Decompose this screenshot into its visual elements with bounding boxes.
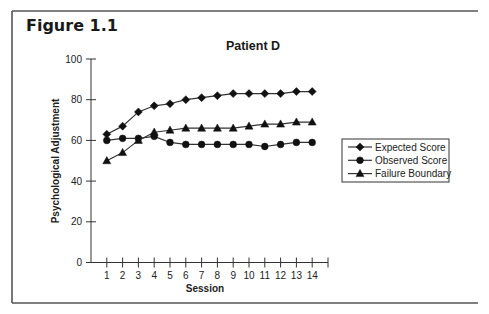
x-tick-label: 5 — [167, 270, 173, 281]
x-ticks: 1234567891011121314 — [104, 258, 328, 282]
x-tick-label: 12 — [275, 270, 287, 281]
circle-icon — [357, 157, 364, 164]
chart-title: Patient D — [226, 39, 280, 53]
circle-marker — [182, 141, 189, 148]
legend: Expected ScoreObserved ScoreFailure Boun… — [342, 139, 451, 182]
circle-marker — [167, 139, 174, 146]
circle-marker — [103, 137, 110, 144]
x-axis-label: Session — [186, 283, 224, 294]
diamond-marker — [213, 92, 221, 100]
y-tick-label: 60 — [71, 135, 83, 146]
legend-label: Observed Score — [375, 155, 448, 166]
legend-label: Failure Boundary — [375, 168, 451, 179]
circle-marker — [261, 143, 268, 150]
triangle-marker — [103, 157, 111, 164]
x-tick-label: 13 — [291, 270, 303, 281]
diamond-marker — [229, 90, 237, 98]
circle-marker — [230, 141, 237, 148]
x-tick-label: 1 — [104, 270, 110, 281]
y-tick-label: 100 — [65, 54, 82, 65]
diamond-marker — [198, 94, 206, 102]
axes — [86, 59, 328, 263]
circle-marker — [246, 141, 253, 148]
x-tick-label: 7 — [199, 270, 205, 281]
x-tick-label: 14 — [307, 270, 319, 281]
series-failure-boundary — [103, 118, 316, 164]
y-tick-label: 0 — [76, 257, 82, 268]
circle-marker — [309, 139, 316, 146]
x-tick-label: 8 — [215, 270, 221, 281]
x-tick-label: 6 — [183, 270, 189, 281]
series-expected-score — [103, 88, 316, 139]
diamond-marker — [277, 90, 285, 98]
figure-label: Figure 1.1 — [26, 16, 118, 35]
triangle-marker — [119, 148, 127, 155]
diamond-marker — [150, 102, 158, 110]
y-axis-label: Psychological Adjustment — [50, 98, 61, 223]
circle-marker — [277, 141, 284, 148]
diamond-marker — [245, 90, 253, 98]
circle-marker — [119, 135, 126, 142]
circle-marker — [293, 139, 300, 146]
x-tick-label: 3 — [136, 270, 142, 281]
circle-marker — [198, 141, 205, 148]
legend-label: Expected Score — [375, 142, 446, 153]
triangle-marker — [198, 124, 206, 131]
diamond-marker — [308, 88, 316, 96]
diamond-marker — [292, 88, 300, 96]
plot-series — [103, 88, 316, 164]
x-tick-label: 4 — [151, 270, 157, 281]
y-tick-label: 20 — [71, 216, 83, 227]
x-tick-label: 9 — [230, 270, 236, 281]
circle-marker — [214, 141, 221, 148]
figure: Figure 1.1 Patient D 020406080100 123456… — [0, 0, 489, 314]
diamond-marker — [261, 90, 269, 98]
triangle-marker — [182, 124, 190, 131]
y-tick-label: 40 — [71, 176, 83, 187]
x-tick-label: 10 — [243, 270, 255, 281]
y-tick-label: 80 — [71, 94, 83, 105]
diamond-marker — [166, 100, 174, 108]
triangle-marker — [213, 124, 221, 131]
x-tick-label: 2 — [120, 270, 126, 281]
x-tick-label: 11 — [260, 270, 271, 281]
diamond-marker — [182, 96, 190, 104]
